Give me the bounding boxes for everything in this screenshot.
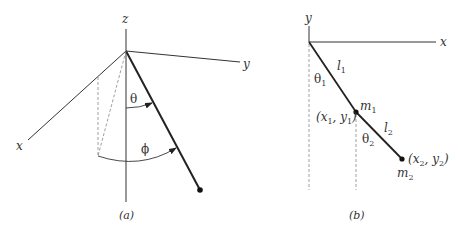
phi-label: ϕ xyxy=(141,143,149,155)
mass-2 xyxy=(399,156,404,161)
pendulum-rod xyxy=(126,51,200,190)
caption-b: (b) xyxy=(349,210,365,221)
projection-dashed-diagonal xyxy=(98,51,126,156)
panel-a xyxy=(28,29,240,202)
y-axis-label: y xyxy=(243,58,250,70)
x-axis-label: x xyxy=(16,140,23,152)
m2-coords-label: (x2, y2) xyxy=(408,153,449,168)
theta-label: θ xyxy=(130,93,137,105)
diagram-canvas xyxy=(0,0,458,237)
m1-coords-label: (x1, y1) xyxy=(316,111,357,126)
theta2-label: θ2 xyxy=(362,133,374,148)
length-l2-label: l2 xyxy=(384,122,393,137)
y-axis-label-b: y xyxy=(305,12,312,24)
theta1-label: θ1 xyxy=(314,73,326,88)
pendulum-bob xyxy=(197,187,203,193)
length-l1-label: l1 xyxy=(337,60,346,75)
caption-a: (a) xyxy=(119,210,134,221)
phi-arc xyxy=(98,148,176,161)
x-axis xyxy=(28,51,126,140)
y-axis xyxy=(126,51,240,62)
m1-label: m1 xyxy=(360,100,376,115)
x-axis-label-b: x xyxy=(440,36,447,48)
z-axis-label: z xyxy=(122,13,128,25)
m2-label: m2 xyxy=(397,167,413,182)
